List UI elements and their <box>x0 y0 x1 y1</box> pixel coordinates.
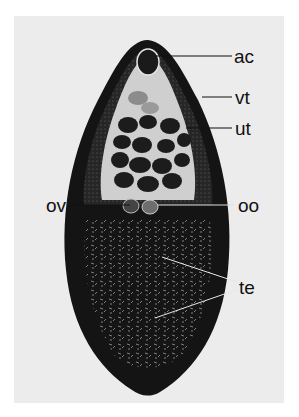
label-ov: ov <box>46 195 67 216</box>
label-oo: oo <box>238 195 259 216</box>
label-ac: ac <box>234 46 254 67</box>
ootype <box>142 200 158 214</box>
specimen-figure: ac vt ut ov oo te <box>0 0 299 417</box>
label-ut: ut <box>235 118 252 139</box>
label-te: te <box>239 277 255 298</box>
ovary <box>123 199 139 213</box>
label-vt: vt <box>235 87 251 108</box>
acetabulum <box>137 49 159 75</box>
